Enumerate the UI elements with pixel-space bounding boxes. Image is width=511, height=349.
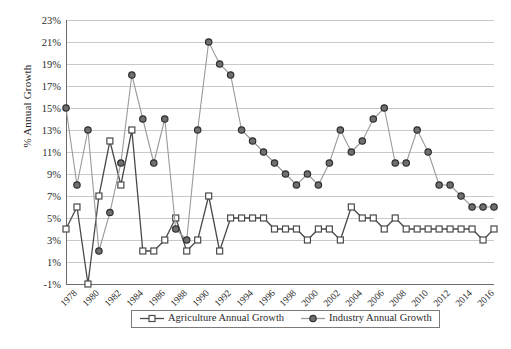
y-tick-label: 13% (42, 125, 61, 136)
chart-legend: Agriculture Annual GrowthIndustry Annual… (131, 310, 440, 328)
y-axis-title: % Annual Growth (21, 31, 33, 181)
x-tick-label: 1978 (59, 288, 80, 309)
y-tick-label: 23% (42, 15, 61, 26)
x-tick-label: 1988 (168, 288, 189, 309)
y-tick-label: 15% (42, 103, 61, 114)
x-tick-label: 2002 (322, 288, 343, 309)
y-tick-label: 1% (47, 257, 61, 268)
x-tick-label: 1992 (212, 288, 233, 309)
y-tick-label: 5% (47, 213, 61, 224)
legend-item[interactable]: Industry Annual Growth (300, 313, 432, 324)
chart-container: % Annual Growth 23%21%19%17%15%13%11%9%7… (0, 0, 511, 349)
x-tick-label: 2014 (454, 288, 475, 309)
legend-item-label: Industry Annual Growth (329, 313, 432, 324)
y-tick-label: 7% (47, 191, 61, 202)
y-tick-label: 3% (47, 235, 61, 246)
x-tick-label: 2004 (344, 288, 365, 309)
legend-item[interactable]: Agriculture Annual Growth (139, 313, 284, 324)
x-tick-label: 1990 (190, 288, 211, 309)
x-tick-label: 2010 (410, 288, 431, 309)
x-tick-label: 2006 (366, 288, 387, 309)
y-tick-label: 11% (42, 147, 61, 158)
y-tick-label: -1% (44, 279, 62, 290)
x-tick-label: 1986 (146, 288, 167, 309)
axis-labels-layer: 1978198019821984198619881990199219941996… (66, 20, 494, 284)
y-tick-label: 9% (47, 169, 61, 180)
x-tick-label: 2008 (388, 288, 409, 309)
x-tick-label: 2016 (476, 288, 497, 309)
y-tick-label: 17% (42, 81, 61, 92)
x-tick-label: 1998 (278, 288, 299, 309)
x-tick-label: 2000 (300, 288, 321, 309)
x-tick-label: 1996 (256, 288, 277, 309)
x-tick-label: 2012 (432, 288, 453, 309)
x-tick-label: 1980 (81, 288, 102, 309)
legend-square-marker-icon (139, 313, 165, 324)
x-tick-label: 1984 (124, 288, 145, 309)
y-tick-label: 21% (42, 37, 61, 48)
gridline (66, 284, 494, 285)
x-tick-label: 1982 (102, 288, 123, 309)
y-tick-label: 19% (42, 59, 61, 70)
legend-item-label: Agriculture Annual Growth (168, 313, 284, 324)
x-tick-label: 1994 (234, 288, 255, 309)
legend-circle-marker-icon (300, 313, 326, 324)
plot-area: 23%21%19%17%15%13%11%9%7%5%3%1%-1% 19781… (66, 20, 494, 284)
